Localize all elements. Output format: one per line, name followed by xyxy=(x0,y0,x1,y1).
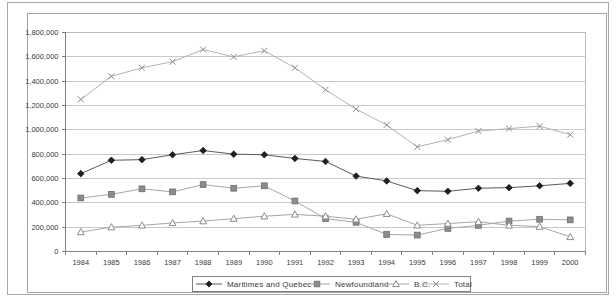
square-marker xyxy=(567,217,573,223)
x-axis-label: 1985 xyxy=(103,258,120,267)
square-marker xyxy=(292,198,298,204)
chart-screenshot: 0200,000400,000600,000800,0001,000,0001,… xyxy=(0,0,616,304)
x-axis-label: 1999 xyxy=(531,258,548,267)
x-axis-label: 1984 xyxy=(72,258,89,267)
square-marker xyxy=(414,232,420,238)
y-axis-label: 800,000 xyxy=(31,150,58,159)
y-axis-label: 600,000 xyxy=(31,174,58,183)
x-axis-label: 1995 xyxy=(409,258,426,267)
legend-item-total: Total xyxy=(423,277,472,291)
y-axis-label: 400,000 xyxy=(31,198,58,207)
x-axis-label: 1998 xyxy=(501,258,518,267)
chart-legend: Maritimes and QuebecNewfoundlandB.C.Tota… xyxy=(192,276,471,292)
legend-key-triangle-icon xyxy=(383,279,409,289)
y-axis-label: 1,800,000 xyxy=(25,28,58,37)
y-axis-label: 1,200,000 xyxy=(25,101,58,110)
legend-key-diamond-icon xyxy=(196,279,222,289)
legend-item-maritimes-and-quebec: Maritimes and Quebec xyxy=(196,277,311,291)
square-marker xyxy=(139,186,145,192)
x-axis-label: 1988 xyxy=(195,258,212,267)
x-axis-label: 1992 xyxy=(317,258,334,267)
y-axis-label: 0 xyxy=(54,247,58,256)
legend-item-newfoundland: Newfoundland xyxy=(304,277,389,291)
square-marker xyxy=(261,183,267,189)
x-axis-label: 1994 xyxy=(378,258,395,267)
legend-key-x-icon xyxy=(423,279,449,289)
y-axis-label: 1,600,000 xyxy=(25,52,58,61)
y-axis-label: 1,400,000 xyxy=(25,77,58,86)
square-marker xyxy=(108,191,114,197)
x-axis-label: 2000 xyxy=(562,258,579,267)
x-axis-label: 1991 xyxy=(287,258,304,267)
x-axis-label: 1990 xyxy=(256,258,273,267)
square-marker xyxy=(78,195,84,201)
square-marker xyxy=(537,216,543,222)
x-axis-label: 1987 xyxy=(164,258,181,267)
x-axis-label: 1989 xyxy=(225,258,242,267)
square-marker xyxy=(231,185,237,191)
diamond-marker xyxy=(206,281,212,287)
square-marker xyxy=(384,232,390,238)
x-axis-label: 1986 xyxy=(134,258,151,267)
legend-key-square-icon xyxy=(304,279,330,289)
line-chart: 0200,000400,000600,000800,0001,000,0001,… xyxy=(0,0,616,304)
square-marker xyxy=(170,189,176,195)
y-axis-label: 1,000,000 xyxy=(25,125,58,134)
x-axis-label: 1993 xyxy=(348,258,365,267)
legend-label: Maritimes and Quebec xyxy=(227,280,311,289)
square-marker xyxy=(314,281,320,287)
square-marker xyxy=(200,182,206,188)
y-axis-label: 200,000 xyxy=(31,223,58,232)
legend-label: Total xyxy=(454,280,472,289)
legend-label: Newfoundland xyxy=(335,280,389,289)
x-axis-label: 1997 xyxy=(470,258,487,267)
x-axis-label: 1996 xyxy=(440,258,457,267)
